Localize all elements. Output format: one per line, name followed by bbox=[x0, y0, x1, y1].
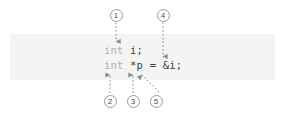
callout-marker-1: 1 bbox=[110, 9, 123, 22]
code-line-1-body: i; bbox=[124, 44, 144, 56]
code-line-2-keyword: int bbox=[104, 59, 124, 71]
code-annotation-figure: int i; int *p = &i; 1 4 2 3 5 bbox=[0, 0, 288, 119]
code-line-2: int *p = &i; bbox=[104, 59, 182, 71]
callout-marker-5: 5 bbox=[150, 95, 163, 108]
callout-marker-2: 2 bbox=[104, 95, 117, 108]
code-background-band bbox=[10, 34, 275, 80]
code-line-1-keyword: int bbox=[104, 44, 124, 56]
code-line-1: int i; bbox=[104, 44, 143, 56]
callout-marker-3: 3 bbox=[127, 95, 140, 108]
code-line-2-body: *p = &i; bbox=[124, 59, 183, 71]
callout-marker-4: 4 bbox=[157, 9, 170, 22]
